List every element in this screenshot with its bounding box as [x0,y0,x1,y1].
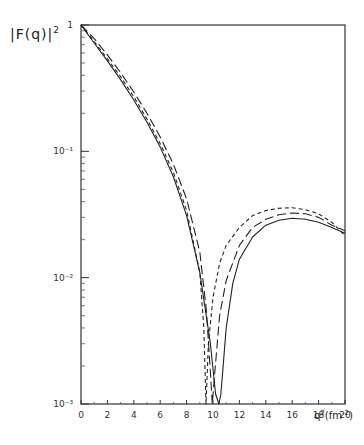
axes-frame [81,25,345,404]
x-tick-label: 0 [78,410,84,420]
x-tick-label: 12 [234,410,245,420]
series-solid [81,25,345,404]
x-tick-label: 4 [131,410,137,420]
y-tick-label: 10⁻¹ [53,146,73,156]
x-tick-label: 14 [260,410,272,420]
x-axis-unit-exponent: -2 [342,409,349,417]
data-series [81,25,345,404]
plot-area: 02468101214161820110⁻¹10⁻²10⁻³ [0,0,364,445]
x-tick-label: 8 [184,410,190,420]
y-tick-label: 1 [67,20,73,30]
x-tick-label: 6 [157,410,163,420]
x-axis-unit-close: ) [349,410,353,421]
series-long-dash [81,25,345,404]
x-axis-unit: (fm [325,410,342,421]
y-tick-label: 10⁻³ [53,399,73,409]
plot-frame [81,25,345,404]
x-tick-label: 10 [207,410,219,420]
x-tick-label: 2 [105,410,111,420]
series-short-dash [81,25,345,404]
x-tick-label: 16 [286,410,298,420]
x-axis-label: q2(fm-2) [314,409,353,421]
y-tick-label: 10⁻² [53,273,73,283]
